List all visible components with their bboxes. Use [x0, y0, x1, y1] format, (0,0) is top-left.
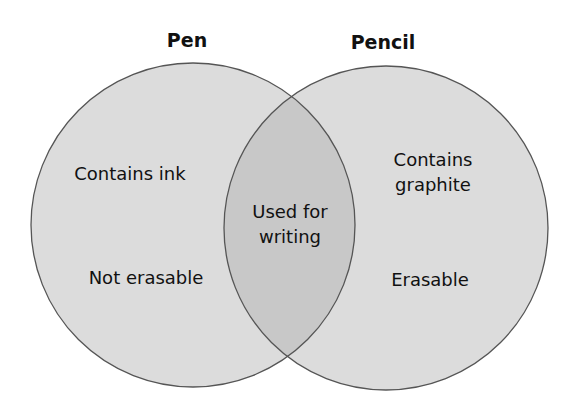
pencil-item-contains: Contains	[394, 149, 473, 170]
pen-title: Pen	[167, 29, 207, 51]
venn-diagram: Pen Pencil Contains ink Not erasable Use…	[0, 0, 584, 404]
overlap-line2: writing	[259, 226, 321, 247]
pencil-title: Pencil	[351, 31, 416, 53]
pen-item-not-erasable: Not erasable	[89, 267, 204, 288]
pencil-item-erasable: Erasable	[391, 269, 469, 290]
pen-item-contains-ink: Contains ink	[74, 163, 186, 184]
pencil-item-graphite: graphite	[395, 174, 471, 195]
overlap-line1: Used for	[252, 201, 328, 222]
